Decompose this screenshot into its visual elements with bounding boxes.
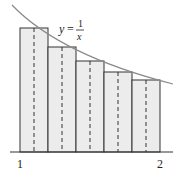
rectangle-4: [104, 72, 132, 152]
tick-label-2: 2: [157, 157, 163, 171]
svg-text:x: x: [76, 31, 82, 42]
svg-text:y: y: [58, 22, 65, 36]
midpoint-rule-diagram: y = 1 x 1 2: [0, 0, 178, 181]
tick-label-1: 1: [17, 157, 23, 171]
svg-text:1: 1: [78, 18, 83, 29]
function-label: y = 1 x: [58, 18, 84, 42]
svg-text:=: =: [67, 22, 74, 36]
